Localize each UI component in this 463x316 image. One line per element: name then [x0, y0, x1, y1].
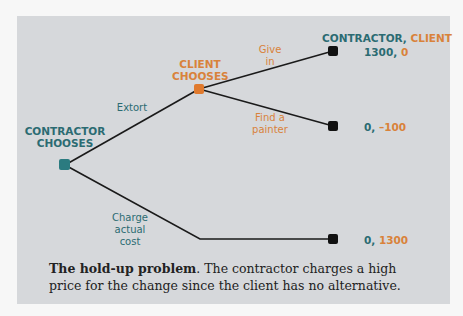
payoff-charge-cost: 0, 1300	[364, 234, 424, 246]
contractor-node	[59, 159, 70, 170]
terminal-node-give-in	[328, 46, 338, 56]
terminal-node-find-painter	[328, 121, 338, 131]
caption-title: The hold-up problem	[49, 261, 196, 276]
payoff-header: CONTRACTOR, CLIENT	[322, 32, 452, 44]
branch-label-extort: Extort	[112, 102, 152, 114]
branch-label-give-in: Give in	[250, 44, 290, 68]
contractor-chooses-label: CONTRACTOR CHOOSES	[22, 125, 108, 149]
figure-caption: The hold-up problem. The contractor char…	[49, 260, 419, 294]
branch-label-charge-actual-cost: Charge actual cost	[106, 212, 154, 248]
branch-label-find-painter: Find a painter	[244, 112, 296, 136]
terminal-node-charge-cost	[328, 234, 338, 244]
payoff-give-in: 1300, 0	[364, 46, 424, 58]
payoff-find-painter: 0, –100	[364, 121, 424, 133]
client-chooses-label: CLIENT CHOOSES	[172, 58, 228, 82]
client-node	[194, 84, 204, 94]
